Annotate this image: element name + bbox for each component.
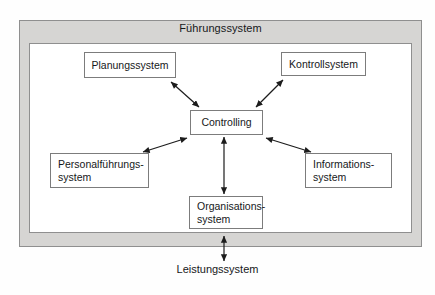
node-controlling[interactable]: Controlling: [190, 110, 263, 135]
node-organisationssystem-label: Organisations- system: [197, 200, 262, 225]
node-organisationssystem[interactable]: Organisations- system: [189, 196, 263, 229]
node-planungssystem-label: Planungssystem: [85, 59, 175, 72]
node-kontrollsystem[interactable]: Kontrollsystem: [281, 52, 366, 76]
node-controlling-label: Controlling: [191, 116, 262, 129]
node-kontrollsystem-label: Kontrollsystem: [282, 58, 365, 71]
node-personalfuehrungssystem-label: Personalführungs- system: [58, 158, 148, 183]
node-personalfuehrungssystem[interactable]: Personalführungs- system: [50, 153, 149, 188]
node-informationssystem-label: Informations- system: [313, 158, 391, 183]
diagram-canvas: Führungssystem Planungssystem Kontrolls: [0, 0, 435, 295]
node-informationssystem[interactable]: Informations- system: [305, 153, 392, 188]
leistungssystem-label: Leistungssystem: [0, 263, 435, 275]
fuehrungssystem-title: Führungssystem: [19, 22, 422, 34]
node-planungssystem[interactable]: Planungssystem: [84, 52, 176, 78]
